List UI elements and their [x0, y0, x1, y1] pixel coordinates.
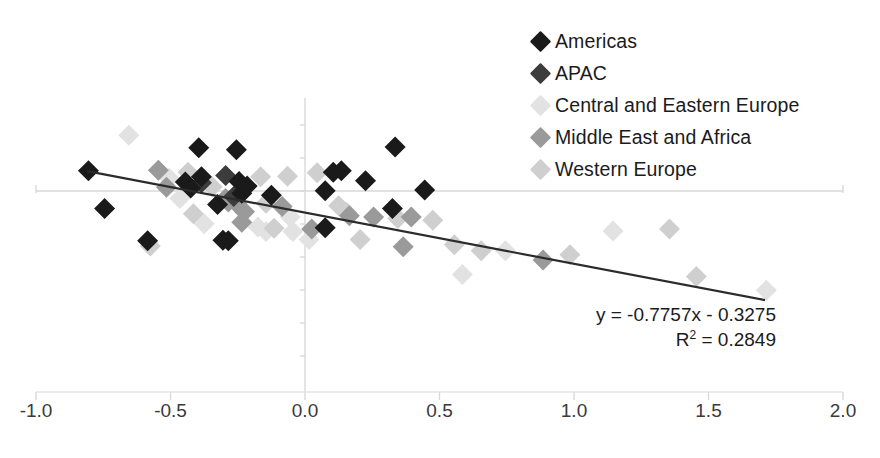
legend-marker-diamond-icon — [530, 31, 551, 52]
legend-item-americas[interactable]: Americas — [533, 28, 799, 55]
x-axis-tick-label: 2.0 — [830, 400, 856, 422]
x-axis-tick-label: 1.0 — [561, 400, 587, 422]
legend-marker-diamond-icon — [530, 127, 551, 148]
trendline-equation-annotation: y = -0.7757x - 0.3275 R2 = 0.2849 — [548, 302, 776, 352]
legend-marker-diamond-icon — [530, 95, 551, 116]
trendline-equation: y = -0.7757x - 0.3275 — [548, 302, 776, 327]
legend-item-western-europe[interactable]: Western Europe — [533, 156, 799, 183]
scatter-chart: Americas APAC Central and Eastern Europe… — [0, 0, 880, 458]
r-squared-number: = 0.2849 — [696, 329, 776, 350]
legend-item-apac[interactable]: APAC — [533, 60, 799, 87]
x-axis-tick-label: -1.0 — [20, 400, 53, 422]
x-axis-tick-label: 0.0 — [292, 400, 318, 422]
x-axis-tick-label: -0.5 — [154, 400, 187, 422]
legend-label: APAC — [555, 64, 607, 84]
legend-item-central-and-eastern-europe[interactable]: Central and Eastern Europe — [533, 92, 799, 119]
legend-marker-diamond-icon — [530, 63, 551, 84]
x-axis-tick-label: 1.5 — [695, 400, 721, 422]
legend-marker-diamond-icon — [530, 159, 551, 180]
legend-label: Western Europe — [555, 160, 697, 180]
legend-label: Central and Eastern Europe — [555, 96, 799, 116]
legend-label: Americas — [555, 32, 637, 52]
x-axis-tick-label: 0.5 — [426, 400, 452, 422]
x-axis-tick-labels: -1.0-0.50.00.51.01.52.0 — [0, 400, 880, 430]
r-squared-value: R2 = 0.2849 — [548, 327, 776, 352]
legend-label: Middle East and Africa — [555, 128, 751, 148]
legend: Americas APAC Central and Eastern Europe… — [533, 28, 799, 183]
r-squared-symbol: R — [676, 329, 690, 350]
legend-item-middle-east-and-africa[interactable]: Middle East and Africa — [533, 124, 799, 151]
